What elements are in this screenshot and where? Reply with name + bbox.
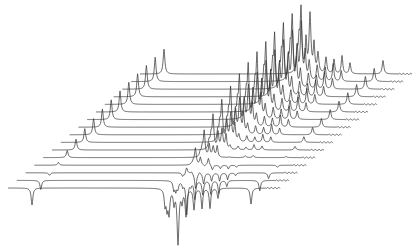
spectrum-trace bbox=[61, 99, 333, 143]
spectrum-trace bbox=[8, 187, 280, 245]
spectrum-trace bbox=[34, 148, 306, 170]
stacked-spectra-plot bbox=[0, 0, 418, 247]
spectrum-trace bbox=[26, 168, 298, 189]
spectrum-trace bbox=[17, 180, 289, 215]
spectrum-traces bbox=[8, 5, 412, 246]
